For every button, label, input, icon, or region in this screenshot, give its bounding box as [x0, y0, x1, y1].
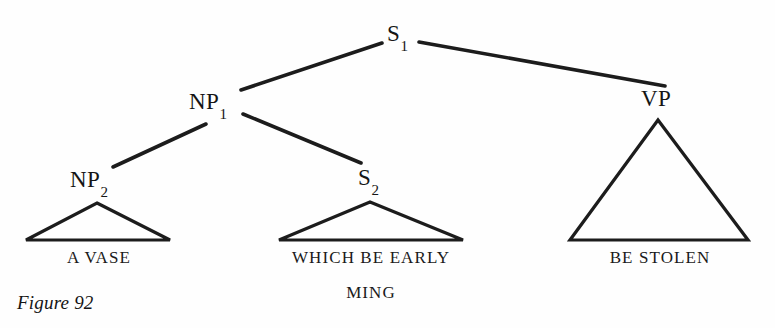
edge-s1-np1: [241, 43, 382, 90]
tree-node-s2-subscript: 2: [372, 182, 380, 198]
triangle-s2: [279, 202, 463, 240]
tree-node-vp: VP: [641, 87, 671, 115]
terminal-line: BE STOLEN: [610, 249, 711, 267]
tree-node-s1: S1: [387, 22, 408, 50]
tree-node-s1-subscript: 1: [401, 38, 409, 54]
triangle-np2: [26, 203, 170, 240]
tree-node-np1: NP1: [189, 90, 227, 118]
terminal-string-s2: WHICH BE EARLY MING: [292, 249, 450, 302]
tree-node-vp-base: VP: [641, 86, 671, 111]
terminal-line: MING: [292, 284, 450, 302]
figure-canvas: S1 NP1 VP NP2 S2 A VASE WHICH BE EARLY M…: [0, 0, 775, 328]
edge-np1-s2: [243, 114, 361, 163]
terminal-line: WHICH BE EARLY: [292, 249, 450, 267]
edge-s1-vp: [419, 42, 665, 86]
tree-node-s2-base: S: [358, 165, 371, 190]
tree-node-s2: S2: [358, 166, 379, 194]
tree-node-np2-base: NP: [70, 167, 100, 192]
terminal-line: A VASE: [67, 249, 131, 267]
tree-node-np2-subscript: 2: [101, 184, 109, 200]
tree-node-np1-subscript: 1: [220, 106, 228, 122]
tree-node-s1-base: S: [387, 21, 400, 46]
figure-caption: Figure 92: [17, 292, 94, 314]
triangle-vp: [570, 120, 748, 240]
tree-node-np2: NP2: [70, 168, 108, 196]
tree-triangles: [26, 120, 748, 240]
terminal-string-np2: A VASE: [67, 249, 131, 267]
edge-np1-np2: [113, 124, 206, 167]
tree-node-np1-base: NP: [189, 89, 219, 114]
terminal-string-vp: BE STOLEN: [610, 249, 711, 267]
